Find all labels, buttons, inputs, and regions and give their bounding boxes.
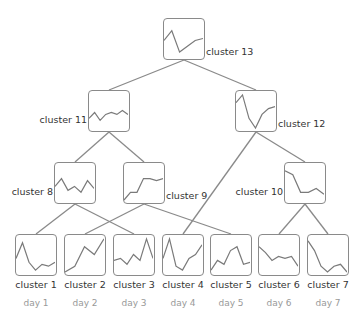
cluster-label: cluster 6 (254, 279, 304, 290)
day-label: day 7 (307, 298, 349, 308)
sparkline-icon (308, 235, 347, 274)
node-c1[interactable] (15, 234, 57, 276)
day-label: day 3 (113, 298, 155, 308)
edge-c11-c8 (75, 132, 109, 162)
sparkline-icon (285, 163, 324, 202)
sparkline-icon (55, 163, 94, 202)
node-c12[interactable] (235, 90, 277, 132)
day-label: day 4 (162, 298, 204, 308)
edge-c13-c12 (184, 60, 256, 90)
cluster-label: cluster 9 (166, 190, 207, 201)
node-c9[interactable] (123, 162, 165, 204)
sparkline-icon (164, 19, 203, 58)
edge-c8-c3 (75, 204, 134, 234)
cluster-label: cluster 12 (278, 118, 325, 129)
sparkline-icon (211, 235, 250, 274)
sparkline-icon (124, 163, 163, 202)
day-label: day 5 (210, 298, 252, 308)
edge-c8-c1 (36, 204, 75, 234)
node-c10[interactable] (284, 162, 326, 204)
cluster-label: cluster 3 (109, 279, 159, 290)
node-c6[interactable] (258, 234, 300, 276)
cluster-label: cluster 10 (236, 186, 283, 197)
edge-c12-c4 (183, 132, 256, 234)
edge-c13-c11 (109, 60, 184, 90)
node-c2[interactable] (64, 234, 106, 276)
day-label: day 6 (258, 298, 300, 308)
cluster-label: cluster 2 (60, 279, 110, 290)
node-c5[interactable] (210, 234, 252, 276)
day-label: day 1 (15, 298, 57, 308)
node-c8[interactable] (54, 162, 96, 204)
cluster-label: cluster 13 (206, 46, 253, 57)
cluster-label: cluster 5 (206, 279, 256, 290)
sparkline-icon (89, 91, 128, 130)
cluster-label: cluster 8 (12, 186, 53, 197)
node-c13[interactable] (163, 18, 205, 60)
sparkline-icon (163, 235, 202, 274)
edge-c9-c5 (144, 204, 231, 234)
cluster-label: cluster 11 (40, 114, 87, 125)
edge-c10-c7 (305, 204, 328, 234)
node-c4[interactable] (162, 234, 204, 276)
sparkline-icon (65, 235, 104, 274)
cluster-label: cluster 1 (11, 279, 61, 290)
cluster-label: cluster 7 (303, 279, 353, 290)
edge-c11-c9 (109, 132, 144, 162)
edge-c9-c2 (85, 204, 144, 234)
cluster-label: cluster 4 (158, 279, 208, 290)
node-c11[interactable] (88, 90, 130, 132)
node-c3[interactable] (113, 234, 155, 276)
sparkline-icon (236, 91, 275, 130)
sparkline-icon (259, 235, 298, 274)
sparkline-icon (16, 235, 55, 274)
edge-c12-c10 (256, 132, 305, 162)
node-c7[interactable] (307, 234, 349, 276)
day-label: day 2 (64, 298, 106, 308)
edge-c10-c6 (279, 204, 305, 234)
sparkline-icon (114, 235, 153, 274)
